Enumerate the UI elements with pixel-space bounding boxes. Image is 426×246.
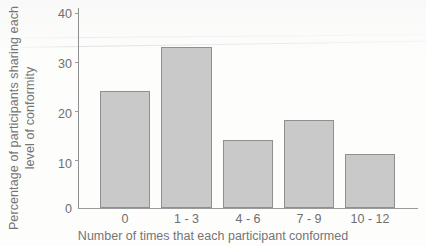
- y-tick-label-30: 30: [46, 58, 72, 70]
- y-axis-line: [78, 8, 79, 209]
- y-tick-mark-30: [75, 62, 79, 63]
- y-axis-title: Percentage of participants sharing each …: [6, 0, 46, 238]
- y-tick-label-10: 10: [46, 158, 72, 170]
- x-tick-label-0: 0: [100, 212, 150, 226]
- scan-streak-artifact-secondary: [0, 34, 426, 39]
- x-tick-label-10-12: 10 - 12: [345, 212, 395, 226]
- y-tick-label-0: 0: [46, 203, 72, 215]
- y-tick-mark-20: [75, 111, 79, 112]
- y-tick-mark-10: [75, 160, 79, 161]
- x-tick-label-4-6: 4 - 6: [223, 212, 273, 226]
- x-tick-label-7-9: 7 - 9: [284, 212, 334, 226]
- bar-category-7-9: [284, 120, 334, 208]
- y-tick-label-20: 20: [46, 108, 72, 120]
- x-tick-label-1-3: 1 - 3: [161, 212, 212, 226]
- chart-figure: Percentage of participants sharing each …: [0, 0, 426, 246]
- bar-category-1-3: [161, 47, 212, 208]
- x-axis-line: [78, 208, 418, 209]
- bar-category-4-6: [223, 140, 273, 208]
- bar-category-0: [100, 91, 150, 208]
- y-axis-title-line-2: level of conformity: [22, 0, 38, 238]
- y-axis-title-line-1: Percentage of participants sharing each: [6, 0, 22, 238]
- scan-streak-artifact: [0, 41, 426, 48]
- y-tick-label-40: 40: [46, 8, 72, 20]
- y-tick-mark-40: [75, 13, 79, 14]
- bar-category-10-12: [345, 154, 395, 208]
- x-axis-title: Number of times that each participant co…: [0, 229, 426, 243]
